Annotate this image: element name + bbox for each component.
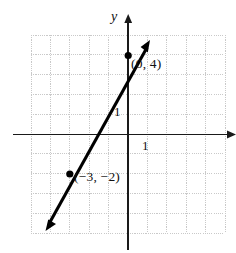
y-unit-tick-label: 1 — [114, 105, 121, 118]
y-axis-arrowhead — [124, 14, 132, 23]
data-points — [66, 52, 132, 178]
graph-figure: y 1 1 (0, 4) (−3, −2) — [0, 0, 236, 253]
point-marker-neg3-neg2 — [66, 170, 73, 177]
point-label-0-4: (0, 4) — [131, 57, 161, 71]
y-axis — [124, 14, 132, 250]
point-label-neg3-neg2: (−3, −2) — [74, 170, 120, 184]
x-axis — [13, 131, 236, 139]
x-axis-arrowhead — [227, 131, 236, 139]
y-axis-label: y — [111, 10, 117, 24]
coordinate-plane-svg — [0, 0, 236, 253]
x-unit-tick-label: 1 — [142, 139, 149, 152]
